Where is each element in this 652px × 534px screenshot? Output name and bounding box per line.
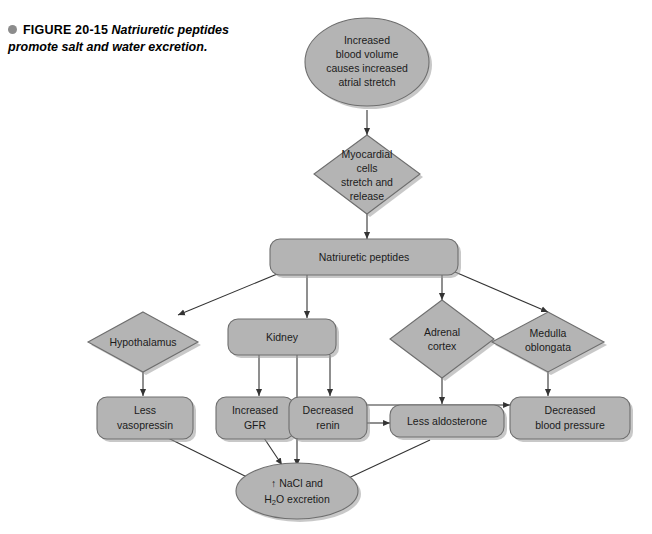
node-n1-line1: blood volume	[336, 48, 399, 60]
node-n2-line3: release	[350, 190, 385, 202]
node-decreased-renin[interactable]: Decreased renin	[289, 397, 370, 442]
node-n2-line2: stretch and	[341, 176, 393, 188]
node-n10-line0: Decreased	[303, 404, 354, 416]
node-n13-h: H	[264, 493, 272, 505]
node-n13-line0: ↑ NaCl and	[271, 477, 323, 489]
node-hypothalamus[interactable]: Hypothalamus	[88, 312, 201, 375]
node-adrenal-cortex[interactable]: Adrenal cortex	[390, 300, 497, 381]
node-n9-line1: GFR	[244, 419, 267, 431]
node-n6-line0: Adrenal	[424, 326, 460, 338]
node-n1-line0: Increased	[344, 34, 390, 46]
node-n8-line1: vasopressin	[117, 419, 173, 431]
node-n2-line0: Myocardial	[342, 148, 393, 160]
node-increased-blood-volume[interactable]: Increased blood volume causes increased …	[305, 18, 432, 109]
node-n2-line1: cells	[356, 162, 377, 174]
node-kidney[interactable]: Kidney	[228, 319, 339, 358]
node-n12-line1: blood pressure	[535, 419, 605, 431]
node-n3-line0: Natriuretic peptides	[319, 251, 409, 263]
node-n4-line0: Hypothalamus	[109, 336, 176, 348]
node-n11-line0: Less aldosterone	[407, 415, 487, 427]
node-n9-line0: Increased	[232, 404, 278, 416]
edge-n8-n13	[168, 438, 255, 481]
node-n6-line1: cortex	[428, 340, 457, 352]
node-n1-line3: atrial stretch	[338, 76, 395, 88]
node-increased-gfr[interactable]: Increased GFR	[216, 397, 297, 442]
node-less-vasopressin[interactable]: Less vasopressin	[97, 397, 196, 442]
flowchart-canvas: Increased blood volume causes increased …	[0, 0, 652, 534]
node-n13-rest: O excretion	[276, 493, 330, 505]
edge-n11-n13	[340, 440, 430, 482]
node-nacl-water-excretion[interactable]: ↑ NaCl and H2O excretion	[236, 463, 361, 522]
node-n1-line2: causes increased	[326, 62, 408, 74]
edge-n3-n7	[455, 272, 548, 312]
node-decreased-blood-pressure[interactable]: Decreased blood pressure	[510, 397, 633, 442]
node-n8-line0: Less	[134, 404, 156, 416]
node-myocardial-cells[interactable]: Myocardial cells stretch and release	[314, 135, 423, 217]
node-less-aldosterone[interactable]: Less aldosterone	[390, 405, 507, 440]
node-n7-line1: oblongata	[525, 341, 571, 353]
node-n5-line0: Kidney	[266, 331, 299, 343]
edge-n9-n13	[264, 438, 282, 465]
edge-n3-n4	[178, 272, 282, 315]
node-n10-line1: renin	[316, 419, 340, 431]
node-medulla-oblongata[interactable]: Medulla oblongata	[492, 312, 607, 375]
node-n7-line0: Medulla	[530, 327, 567, 339]
node-natriuretic-peptides[interactable]: Natriuretic peptides	[270, 239, 461, 278]
node-n12-line0: Decreased	[545, 404, 596, 416]
